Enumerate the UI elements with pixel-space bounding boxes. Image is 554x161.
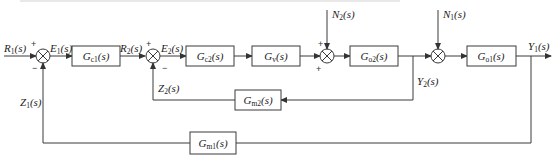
z1-feedback-path xyxy=(43,63,190,143)
summing-junction-1 xyxy=(36,49,50,63)
summing-junction-4 xyxy=(431,49,445,63)
label-gv: Gv(s) xyxy=(264,50,288,64)
sign-sum1-plus: + xyxy=(31,39,36,49)
signal-y2: Y2(s) xyxy=(417,75,439,89)
signal-r1: R1(s) xyxy=(3,42,26,56)
signal-r2: R2(s) xyxy=(119,42,142,56)
signal-z2: Z2(s) xyxy=(158,82,180,96)
signal-e2: E2(s) xyxy=(160,42,183,56)
signal-n2: N2(s) xyxy=(331,8,355,22)
block-diagram: Gc1(s) Gc2(s) Gv(s) Go2(s) Go1(s) Gm2(s)… xyxy=(0,0,554,161)
summing-junction-2 xyxy=(146,49,160,63)
summing-junction-3 xyxy=(320,49,334,63)
signal-z1: Z1(s) xyxy=(20,96,42,110)
sign-sum2-minus: − xyxy=(162,63,167,73)
sign-sum2-plus: + xyxy=(146,39,151,49)
sign-sum3-plus-top: + xyxy=(318,39,323,49)
signal-y1: Y1(s) xyxy=(528,40,550,54)
signal-n1: N1(s) xyxy=(442,8,466,22)
sign-sum3-plus-left: + xyxy=(316,64,321,74)
signal-e1: E1(s) xyxy=(49,42,72,56)
sign-sum1-minus: − xyxy=(32,63,37,73)
